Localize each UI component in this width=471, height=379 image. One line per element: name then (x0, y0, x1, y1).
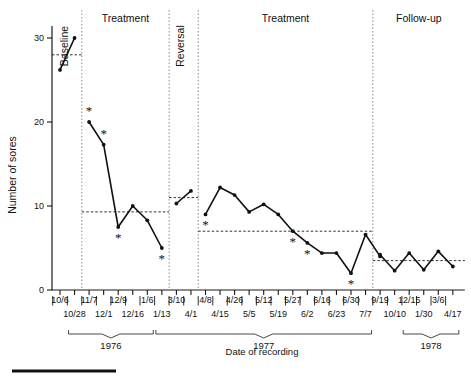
data-point (335, 251, 339, 255)
x-tick-label: 5/27 (284, 295, 302, 305)
year-bracket (69, 330, 154, 338)
significance-marker: * (290, 234, 297, 249)
data-point (291, 229, 295, 233)
data-point (58, 68, 62, 72)
data-point (175, 202, 179, 206)
data-point (233, 193, 237, 197)
data-point (102, 143, 106, 147)
x-axis-label: Date of recording (226, 346, 299, 357)
x-tick-label: 4/26 (226, 295, 244, 305)
data-point (160, 246, 164, 250)
data-point (247, 210, 251, 214)
data-point (349, 271, 353, 275)
data-point (305, 241, 309, 245)
data-point (276, 213, 280, 217)
y-tick-label: 0 (39, 285, 44, 295)
data-point (131, 204, 135, 208)
x-tick-label: 12/16 (121, 309, 144, 319)
significance-marker: * (304, 246, 311, 261)
chart-figure: BaselineTreatmentReversalTreatmentFollow… (0, 0, 471, 379)
x-tick-label: 6/30 (342, 295, 360, 305)
year-bracket (156, 330, 372, 338)
y-axis-label: Number of sores (6, 136, 18, 214)
x-tick-label: 5/5 (243, 309, 256, 319)
data-point (204, 213, 208, 217)
x-tick-label: 4/17 (444, 309, 462, 319)
line-chart: BaselineTreatmentReversalTreatmentFollow… (0, 0, 471, 379)
phase-label-treatment-3: Treatment (262, 12, 310, 24)
data-point (87, 120, 91, 124)
significance-marker: * (86, 103, 93, 118)
x-tick-label: 9/19 (371, 295, 389, 305)
data-point (262, 202, 266, 206)
x-tick-label: 5/19 (269, 309, 287, 319)
data-point (145, 218, 149, 222)
x-tick-label: 6/2 (301, 309, 314, 319)
x-tick-label: 4/1 (185, 309, 198, 319)
x-tick-label: 3/6 (432, 295, 445, 305)
x-tick-label: 10/10 (383, 309, 406, 319)
x-tick-label: 5/12 (255, 295, 273, 305)
year-bracket (403, 330, 459, 338)
y-tick-label: 20 (34, 117, 44, 127)
data-point (73, 36, 77, 40)
x-tick-label: 1/30 (415, 309, 433, 319)
data-point (189, 189, 193, 193)
x-tick-label: 12/9 (109, 295, 127, 305)
significance-marker: * (100, 126, 107, 141)
y-tick-label: 10 (34, 201, 44, 211)
data-point (378, 253, 382, 257)
phase-label-treatment-1: Treatment (102, 12, 150, 24)
chart-axes (52, 26, 465, 290)
significance-marker: * (202, 217, 209, 232)
data-point (407, 251, 411, 255)
x-tick-label: 11/7 (81, 295, 98, 305)
x-tick-label: 6/16 (313, 295, 331, 305)
x-tick-label: 7/7 (359, 309, 372, 319)
year-bracket-label: 1976 (100, 340, 121, 351)
data-point (451, 265, 455, 269)
data-point (320, 251, 324, 255)
phase-label-follow-up-4: Follow-up (396, 12, 442, 24)
data-point (436, 249, 440, 253)
x-tick-label: 12/15 (398, 295, 421, 305)
x-tick-label: 6/23 (328, 309, 346, 319)
data-line-segment (89, 122, 162, 248)
x-tick-label: 10/6 (51, 295, 69, 305)
data-point (393, 269, 397, 273)
significance-marker: * (348, 276, 355, 291)
data-point (422, 268, 426, 272)
x-tick-label: 4/15 (211, 309, 229, 319)
x-tick-label: 4/8 (199, 295, 212, 305)
data-point (364, 233, 368, 237)
x-tick-label: 1/6 (141, 295, 154, 305)
year-bracket-label: 1978 (420, 340, 441, 351)
data-point (116, 225, 120, 229)
data-point (218, 186, 222, 190)
significance-marker: * (159, 251, 166, 266)
x-tick-label: 12/1 (95, 309, 113, 319)
y-tick-label: 30 (34, 33, 44, 43)
x-tick-label: 3/10 (168, 295, 186, 305)
significance-marker: * (115, 230, 122, 245)
phase-label-reversal-2: Reversal (174, 25, 186, 66)
x-tick-label: 1/13 (153, 309, 171, 319)
x-tick-label: 10/28 (63, 309, 86, 319)
